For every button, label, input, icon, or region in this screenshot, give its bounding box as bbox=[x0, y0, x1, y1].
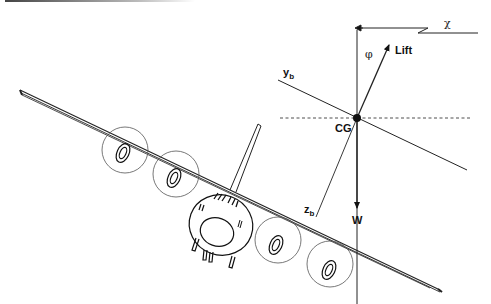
zb-label: zb bbox=[304, 203, 315, 218]
yb-label-sub: b bbox=[289, 72, 294, 81]
yb-label: yb bbox=[283, 66, 294, 81]
zb-label-sub: b bbox=[310, 209, 315, 218]
vertical-tail bbox=[230, 124, 261, 192]
prop-disc-3 bbox=[255, 217, 301, 263]
fuselage bbox=[181, 186, 262, 268]
bank-angle-label: φ bbox=[365, 48, 373, 61]
nacelle-3 bbox=[266, 233, 285, 256]
aircraft bbox=[20, 90, 442, 292]
lift-vector bbox=[357, 45, 389, 118]
cg-label: CG bbox=[335, 122, 352, 134]
yb-axis-line bbox=[278, 80, 467, 170]
heading-label: χ bbox=[444, 17, 451, 30]
heading-indicator bbox=[355, 25, 478, 33]
lift-label: Lift bbox=[395, 44, 412, 56]
nacelle-4 bbox=[319, 258, 338, 281]
cg-point bbox=[353, 114, 361, 122]
diagram-canvas: χ φ Lift CG yb zb W bbox=[0, 0, 491, 304]
weight-label: W bbox=[352, 214, 363, 226]
